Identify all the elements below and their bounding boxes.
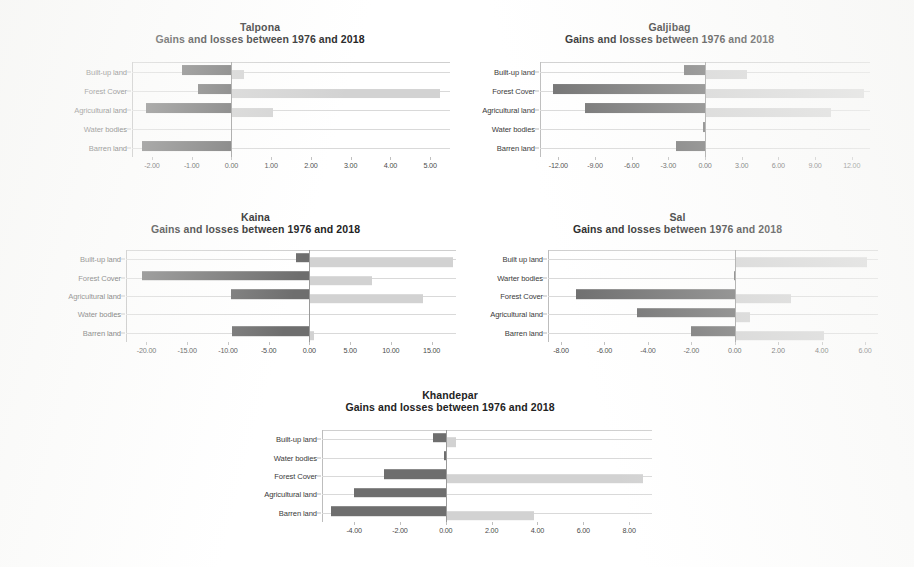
x-tick-label-khandepar-0: -4.00 (346, 526, 361, 535)
chart-subtitle: Gains and losses between 1976 and 2018 (462, 34, 877, 46)
bar-gain-sal-4 (735, 331, 824, 341)
category-tick (121, 277, 125, 278)
category-label-khandepar-1: Water bodies (274, 453, 317, 462)
bar-gain-talpona-2 (231, 108, 273, 118)
chart-subtitle: Gains and losses between 1976 and 2018 (470, 224, 885, 236)
bar-gain-sal-2 (735, 294, 791, 304)
zero-axis-line (309, 250, 310, 342)
zero-axis-line (735, 250, 736, 342)
category-label-galjibag-1: Forest Cover (492, 86, 535, 95)
x-tick (152, 157, 153, 160)
x-tick (632, 157, 633, 160)
x-tick-label-khandepar-4: 4.00 (531, 526, 544, 535)
x-tick-label-galjibag-5: 3.00 (735, 161, 748, 170)
x-tick (492, 522, 493, 525)
x-tick-label-galjibag-8: 12.00 (843, 161, 860, 170)
bar-loss-khandepar-3 (354, 488, 446, 498)
plot-area-sal: Built up landWarter bodiesForest CoverAg… (548, 250, 878, 342)
x-tick-label-talpona-6: 4.00 (384, 161, 397, 170)
category-label-talpona-4: Barren land (89, 143, 127, 152)
x-tick-label-kaina-3: -5.00 (261, 346, 276, 355)
x-tick-label-sal-7: 6.00 (858, 346, 871, 355)
bar-loss-talpona-4 (142, 141, 231, 151)
plot-area-galjibag: Built-up landForest CoverAgricultural la… (540, 62, 870, 157)
x-tick (390, 157, 391, 160)
category-tick (127, 71, 131, 72)
bar-gain-kaina-2 (309, 294, 422, 304)
x-tick-label-kaina-2: -10.00 (218, 346, 237, 355)
bar-loss-talpona-0 (182, 65, 232, 75)
category-tick (121, 314, 125, 315)
category-label-kaina-4: Barren land (83, 328, 121, 337)
category-tick (317, 476, 321, 477)
bar-loss-kaina-1 (142, 271, 310, 281)
x-tick-label-kaina-0: -20.00 (137, 346, 156, 355)
bar-gain-khandepar-2 (446, 474, 643, 484)
category-tick (121, 332, 125, 333)
chart-subtitle: Gains and losses between 1976 and 2018 (60, 34, 460, 46)
x-tick (815, 157, 816, 160)
x-tick-label-kaina-5: 5.00 (343, 346, 356, 355)
category-tick (317, 494, 321, 495)
bar-loss-galjibag-0 (684, 65, 705, 75)
category-label-galjibag-2: Agricultural land (482, 105, 535, 114)
category-label-galjibag-0: Built-up land (494, 67, 535, 76)
x-tick (228, 342, 229, 345)
x-tick (269, 342, 270, 345)
category-label-khandepar-3: Agricultural land (264, 490, 317, 499)
category-tick (535, 128, 539, 129)
chart-panel-talpona: TalponaGains and losses between 1976 and… (60, 22, 460, 187)
plot-top-border (132, 62, 450, 63)
category-label-kaina-0: Built-up land (80, 255, 121, 264)
category-tick (535, 90, 539, 91)
x-tick-label-galjibag-3: -3.00 (661, 161, 676, 170)
plot-area-kaina: Built-up landForest CoverAgricultural la… (126, 250, 456, 342)
x-tick-label-khandepar-2: 0.00 (439, 526, 452, 535)
bar-gain-kaina-1 (309, 276, 372, 286)
x-tick (604, 342, 605, 345)
category-label-sal-2: Forest Cover (500, 292, 543, 301)
chart-subtitle: Gains and losses between 1976 and 2018 (240, 402, 660, 414)
x-tick-label-galjibag-1: -9.00 (587, 161, 602, 170)
bar-loss-kaina-2 (231, 290, 309, 300)
x-tick (595, 157, 596, 160)
chart-title-main: Khandepar (240, 390, 660, 402)
bar-gain-khandepar-4 (446, 511, 534, 521)
bar-loss-sal-4 (691, 326, 734, 336)
gridline-row (126, 314, 456, 315)
x-tick-label-talpona-4: 2.00 (304, 161, 317, 170)
bar-loss-khandepar-2 (384, 470, 446, 480)
x-tick-label-sal-6: 4.00 (815, 346, 828, 355)
x-tick-label-sal-5: 2.00 (771, 346, 784, 355)
x-tick-label-kaina-7: 15.00 (423, 346, 440, 355)
x-tick (668, 157, 669, 160)
x-tick (537, 522, 538, 525)
x-tick (309, 342, 310, 345)
chart-panel-kaina: KainaGains and losses between 1976 and 2… (48, 212, 463, 372)
x-tick-label-kaina-1: -15.00 (178, 346, 197, 355)
x-tick (231, 157, 232, 160)
category-tick (127, 109, 131, 110)
gridline-row (548, 278, 878, 279)
bar-gain-sal-0 (735, 257, 867, 267)
bar-gain-talpona-0 (231, 70, 244, 80)
zero-axis-line (446, 430, 447, 522)
x-tick-label-sal-2: -4.00 (640, 346, 655, 355)
category-label-sal-0: Built up land (503, 255, 544, 264)
bar-loss-sal-2 (576, 290, 735, 300)
category-label-talpona-0: Built-up land (86, 67, 127, 76)
x-tick (735, 342, 736, 345)
category-tick (535, 71, 539, 72)
category-tick (317, 512, 321, 513)
category-label-kaina-2: Agricultural land (68, 292, 121, 301)
bar-loss-galjibag-4 (676, 141, 705, 151)
category-label-talpona-1: Forest Cover (84, 86, 127, 95)
zero-axis-line (705, 62, 706, 157)
bar-loss-kaina-0 (296, 253, 309, 263)
category-label-sal-3: Agricultural land (490, 310, 543, 319)
x-tick-label-kaina-4: 0.00 (303, 346, 316, 355)
bar-loss-talpona-1 (198, 84, 232, 94)
gridline-row (322, 439, 652, 440)
x-tick (187, 342, 188, 345)
x-tick (146, 342, 147, 345)
